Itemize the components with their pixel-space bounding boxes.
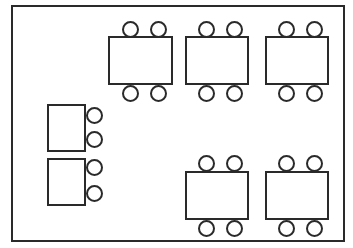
- chair-icon: [198, 155, 215, 172]
- chair-icon: [198, 21, 215, 38]
- chair-icon: [278, 21, 295, 38]
- chair-icon: [278, 85, 295, 102]
- chair-icon: [226, 85, 243, 102]
- chair-icon: [122, 21, 139, 38]
- chair-icon: [122, 85, 139, 102]
- chair-icon: [86, 131, 103, 148]
- table-6: [185, 171, 249, 220]
- table-3: [265, 36, 329, 85]
- chair-icon: [198, 85, 215, 102]
- chair-icon: [150, 21, 167, 38]
- chair-icon: [226, 155, 243, 172]
- table-2: [185, 36, 249, 85]
- chair-icon: [86, 185, 103, 202]
- chair-icon: [226, 220, 243, 237]
- table-1: [108, 36, 173, 85]
- chair-icon: [86, 159, 103, 176]
- chair-icon: [198, 220, 215, 237]
- chair-icon: [306, 155, 323, 172]
- chair-icon: [306, 85, 323, 102]
- chair-icon: [278, 220, 295, 237]
- chair-icon: [306, 220, 323, 237]
- chair-icon: [226, 21, 243, 38]
- table-5: [47, 158, 86, 206]
- table-4: [47, 104, 86, 152]
- chair-icon: [150, 85, 167, 102]
- chair-icon: [306, 21, 323, 38]
- table-7: [265, 171, 329, 220]
- chair-icon: [278, 155, 295, 172]
- chair-icon: [86, 107, 103, 124]
